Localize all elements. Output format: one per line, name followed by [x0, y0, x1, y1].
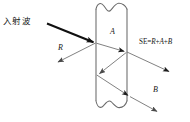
- absorption-ray-A: [96, 43, 124, 51]
- exit-ray-SE: [127, 52, 169, 72]
- slab-top-break-line: [96, 3, 127, 11]
- internal-second-ray-B: [97, 75, 128, 95]
- formula-prefix: SE=: [139, 38, 151, 46]
- shielding-effectiveness-diagram: 入射波 R A B SE=R+A+B: [0, 0, 190, 122]
- slab-bottom-break-line: [96, 101, 127, 108]
- reflection-label-R: R: [58, 44, 63, 52]
- incident-wave-label: 入射波: [3, 17, 31, 26]
- internal-reflection-ray: [100, 52, 127, 73]
- multiple-reflection-label-B: B: [153, 86, 158, 94]
- exit-ray-B: [130, 97, 157, 112]
- reflected-ray-R: [58, 43, 96, 62]
- absorption-label-A: A: [110, 28, 115, 36]
- formula-term-b: B: [168, 38, 172, 46]
- shielding-effectiveness-formula: SE=R+A+B: [139, 39, 172, 46]
- incident-ray: [47, 24, 94, 43]
